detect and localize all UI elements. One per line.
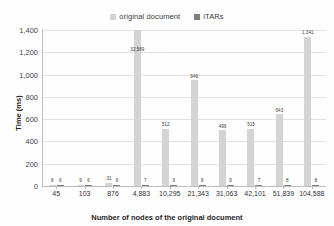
bar[interactable]: 8: [49, 185, 56, 186]
bar-value-label: 512: [162, 123, 170, 128]
y-axis-tick-label: 600: [25, 115, 38, 124]
x-axis-tick-mark: [283, 186, 284, 189]
y-axis-tick-label: 1,200: [19, 48, 38, 57]
bar-value-label: 9: [173, 179, 176, 184]
bar[interactable]: 515: [247, 129, 254, 186]
x-axis-tick-mark: [113, 186, 114, 189]
x-axis-tick-label: 21,343: [187, 190, 208, 197]
bar-group: 5157: [241, 30, 269, 186]
bar[interactable]: 499: [219, 130, 226, 186]
chart-legend: original documentiTARs: [0, 12, 334, 21]
bar-value-label: 8: [51, 179, 54, 184]
bar-group: 4999: [212, 30, 240, 186]
bar-value-label: 9: [229, 179, 232, 184]
bar[interactable]: 8: [312, 185, 319, 186]
bar[interactable]: 7: [142, 185, 149, 186]
x-axis-tick-mark: [312, 186, 313, 189]
bar[interactable]: 6: [113, 185, 120, 186]
x-axis-tick-label: 876: [107, 190, 119, 197]
bar[interactable]: 6: [85, 185, 92, 186]
x-axis-tick-mark: [141, 186, 142, 189]
legend-entry[interactable]: iTARs: [194, 12, 223, 21]
bar[interactable]: 949: [191, 80, 198, 186]
bar-value-label: 6: [116, 179, 119, 184]
bar-value-label: 7: [144, 179, 147, 184]
x-axis-tick-label: 45: [52, 190, 60, 197]
x-axis-tick-mark: [198, 186, 199, 189]
y-axis-tick-label: 0: [34, 182, 38, 191]
y-axis-tick-label: 1,400: [19, 26, 38, 35]
x-axis-tick-label: 31,063: [216, 190, 237, 197]
bar[interactable]: 7: [255, 185, 262, 186]
bar-group: 1,3418: [298, 30, 326, 186]
x-axis-tick-mark: [56, 186, 57, 189]
x-axis-tick-mark: [170, 186, 171, 189]
x-axis-tick-label: 4,883: [133, 190, 151, 197]
x-axis-tick-mark: [227, 186, 228, 189]
y-axis-tick-label: 1,000: [19, 70, 38, 79]
x-axis-tick-mark: [85, 186, 86, 189]
bar[interactable]: 1,341: [304, 37, 311, 186]
x-axis-tick-label: 104,588: [299, 190, 324, 197]
bar-value-label: 32,569: [130, 48, 144, 53]
bar[interactable]: 8: [199, 185, 206, 186]
legend-label: iTARs: [203, 12, 223, 21]
bar[interactable]: 643: [276, 114, 283, 186]
bar[interactable]: 31: [105, 183, 112, 186]
bar-value-label: 8: [201, 179, 204, 184]
bar[interactable]: 512: [162, 129, 169, 186]
bar[interactable]: 9: [77, 185, 84, 186]
x-axis-title: Number of nodes of the original document: [0, 213, 334, 222]
x-axis-tick-labels: 451038764,88310,29521,34331,06342,10151,…: [42, 190, 326, 202]
x-axis-tick-mark: [255, 186, 256, 189]
bar-group: 96: [70, 30, 98, 186]
bar-value-label: 9: [79, 179, 82, 184]
x-axis-tick-label: 103: [79, 190, 91, 197]
bar-group: 32,5697: [127, 30, 155, 186]
bar-value-label: 515: [247, 123, 255, 128]
legend-swatch-icon: [194, 14, 200, 20]
bar-group: 5129: [156, 30, 184, 186]
y-axis-tick-labels: 02004006008001,0001,2001,400: [0, 30, 42, 186]
bar-value-label: 8: [286, 179, 289, 184]
x-axis-tick-label: 51,839: [273, 190, 294, 197]
legend-swatch-icon: [110, 14, 116, 20]
bar-value-label: 8: [315, 179, 318, 184]
bar[interactable]: 32,569: [134, 30, 141, 186]
bar-value-label: 499: [219, 125, 227, 130]
bar-value-label: 6: [87, 179, 90, 184]
x-axis-tick-label: 10,295: [159, 190, 180, 197]
legend-entry[interactable]: original document: [110, 12, 180, 21]
bar-value-label: 643: [276, 109, 284, 114]
y-axis-tick-label: 800: [25, 92, 38, 101]
bar-group: 86: [42, 30, 70, 186]
x-axis-tick-label: 42,101: [244, 190, 265, 197]
bar-value-label: 31: [106, 177, 111, 182]
bar[interactable]: 9: [170, 185, 177, 186]
bar[interactable]: 9: [227, 185, 234, 186]
bar-group: 6438: [269, 30, 297, 186]
bar-value-label: 1,341: [302, 31, 314, 36]
legend-label: original document: [119, 12, 180, 21]
bar-value-label: 949: [190, 75, 198, 80]
bar-chart: original documentiTARs Time (ms) 0200400…: [0, 0, 334, 226]
bars-layer: 869631632,5697512994984999515764381,3418: [42, 30, 326, 186]
bar[interactable]: 8: [284, 185, 291, 186]
bar-group: 9498: [184, 30, 212, 186]
bar-value-label: 7: [258, 179, 261, 184]
y-axis-tick-label: 200: [25, 159, 38, 168]
bar-group: 316: [99, 30, 127, 186]
y-axis-tick-label: 400: [25, 137, 38, 146]
bar[interactable]: 6: [57, 185, 64, 186]
bar-value-label: 6: [59, 179, 62, 184]
